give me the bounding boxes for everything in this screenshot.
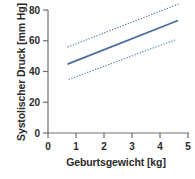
y-axis-ticks: 020406080 bbox=[29, 5, 48, 139]
y-tick-label: 60 bbox=[29, 35, 41, 46]
confidence-band-line bbox=[69, 39, 177, 79]
x-axis-ticks: 012345 bbox=[45, 133, 191, 152]
plot-area: 020406080 012345 bbox=[0, 0, 195, 179]
y-tick-label: 0 bbox=[34, 128, 40, 139]
data-series-group bbox=[68, 4, 179, 79]
y-tick-label: 20 bbox=[29, 97, 41, 108]
x-tick-label: 0 bbox=[45, 141, 51, 152]
y-tick-label: 40 bbox=[29, 66, 41, 77]
x-tick-label: 5 bbox=[185, 141, 191, 152]
chart-container: Systolischer Druck [mm Hg] Geburtsgewich… bbox=[0, 0, 195, 179]
x-tick-label: 3 bbox=[129, 141, 135, 152]
confidence-band-line bbox=[68, 4, 179, 47]
x-tick-label: 4 bbox=[157, 141, 163, 152]
y-tick-label: 80 bbox=[29, 5, 41, 16]
x-tick-label: 1 bbox=[73, 141, 79, 152]
x-tick-label: 2 bbox=[101, 141, 107, 152]
regression-line bbox=[68, 21, 177, 64]
